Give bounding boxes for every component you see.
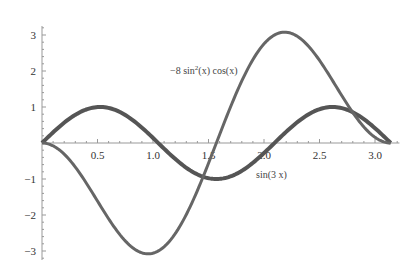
y-tick-label: 3 (31, 29, 37, 41)
y-tick-label: 2 (31, 65, 37, 77)
y-tick-label: −2 (24, 209, 36, 221)
y-tick-label: 1 (31, 101, 37, 113)
x-tick-label: 3.0 (368, 149, 382, 161)
axes: 0.51.01.52.02.53.0−3−2−1123 (24, 26, 399, 260)
y-tick-label: −1 (24, 173, 36, 185)
x-tick-label: 2.5 (313, 149, 327, 161)
x-tick-label: 0.5 (91, 149, 105, 161)
y-tick-label: −3 (24, 245, 36, 257)
curve-label-poly: −8 sin2(x) cos(x) (170, 64, 237, 77)
plot: 0.51.01.52.02.53.0−3−2−1123 −8 sin2(x) c… (0, 0, 417, 273)
x-tick-label: 1.0 (146, 149, 160, 161)
curve-label-sin3x: sin(3 x) (256, 169, 287, 181)
